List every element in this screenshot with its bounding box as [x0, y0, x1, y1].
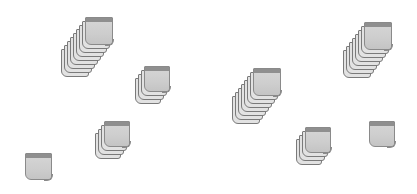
card-header-strip [365, 23, 391, 27]
card-header-strip [26, 154, 51, 158]
card-top[interactable] [364, 22, 392, 50]
page-curl-icon [384, 44, 393, 51]
page-curl-icon [105, 39, 114, 46]
page-curl-icon [323, 147, 332, 154]
card-top[interactable] [369, 121, 395, 147]
card-header-strip [145, 67, 169, 71]
card-top[interactable] [305, 127, 331, 153]
card-top[interactable] [144, 66, 170, 92]
card-header-strip [370, 122, 394, 126]
card-header-strip [306, 128, 330, 132]
page-curl-icon [273, 90, 282, 97]
card-top[interactable] [25, 153, 52, 180]
card-header-strip [105, 122, 129, 126]
page-curl-icon [44, 174, 53, 181]
card-top[interactable] [104, 121, 130, 147]
card-header-strip [86, 18, 112, 22]
page-curl-icon [387, 141, 396, 148]
card-header-strip [254, 69, 280, 73]
card-top[interactable] [85, 17, 113, 45]
card-top[interactable] [253, 68, 281, 96]
page-curl-icon [122, 141, 131, 148]
page-curl-icon [162, 86, 171, 93]
